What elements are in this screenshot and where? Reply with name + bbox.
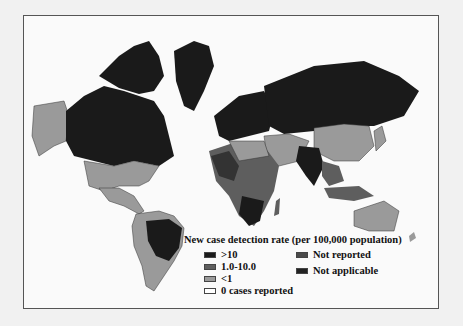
region-southern-africa <box>239 196 264 226</box>
region-se-asia <box>322 161 344 186</box>
legend-swatch <box>204 288 216 294</box>
region-china <box>314 124 374 161</box>
map-legend: New case detection rate (per 100,000 pop… <box>184 234 424 247</box>
region-japan <box>374 126 386 151</box>
legend-swatch <box>204 252 216 258</box>
legend-swatch <box>204 264 216 270</box>
legend-item-lt1: <1 <box>204 273 232 284</box>
region-usa <box>84 161 159 191</box>
legend-item-gt10: >10 <box>204 249 237 260</box>
region-europe <box>214 91 274 141</box>
region-madagascar <box>274 198 280 216</box>
region-greenland <box>174 41 214 111</box>
legend-swatch <box>204 276 216 282</box>
legend-title: New case detection rate (per 100,000 pop… <box>184 234 424 245</box>
legend-label: 1.0-10.0 <box>221 261 256 272</box>
region-russia <box>264 61 419 134</box>
region-alaska <box>32 101 69 156</box>
legend-swatch <box>296 252 308 258</box>
region-australia <box>354 201 399 231</box>
region-indonesia <box>324 186 374 201</box>
region-mexico <box>99 188 144 214</box>
legend-item-not-reported: Not reported <box>296 249 371 260</box>
region-india <box>296 146 324 186</box>
region-canada <box>66 86 174 166</box>
legend-label: >10 <box>221 249 237 260</box>
legend-swatch <box>296 268 308 274</box>
legend-label: Not applicable <box>313 265 378 276</box>
legend-item-zero: 0 cases reported <box>204 285 293 296</box>
legend-item-not-applicable: Not applicable <box>296 265 378 276</box>
legend-item-1-10: 1.0-10.0 <box>204 261 256 272</box>
region-arctic-islands <box>99 41 164 94</box>
map-frame: New case detection rate (per 100,000 pop… <box>23 15 439 309</box>
legend-label: 0 cases reported <box>221 285 293 296</box>
legend-label: Not reported <box>313 249 371 260</box>
legend-label: <1 <box>221 273 232 284</box>
